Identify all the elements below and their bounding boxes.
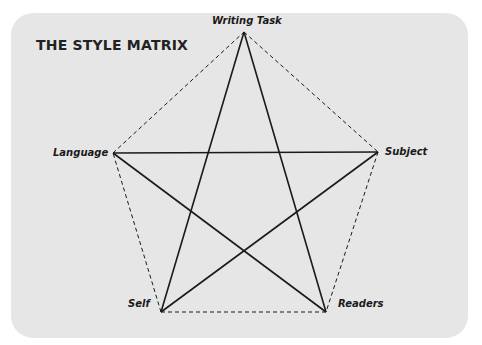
edge-language-subject bbox=[113, 152, 378, 153]
style-matrix-diagram bbox=[0, 0, 482, 345]
pentagon-dashed-edges bbox=[113, 32, 378, 312]
node-label-language: Language bbox=[53, 147, 108, 158]
edge-language-writing bbox=[113, 32, 244, 153]
edge-writing-readers bbox=[244, 32, 326, 312]
edge-subject-readers bbox=[326, 152, 378, 312]
star-solid-edges bbox=[113, 32, 378, 312]
node-label-self: Self bbox=[128, 298, 150, 309]
edge-language-readers bbox=[113, 153, 326, 312]
edge-self-language bbox=[113, 153, 161, 312]
edge-writing-subject bbox=[244, 32, 378, 152]
node-label-readers: Readers bbox=[338, 298, 384, 309]
edge-writing-self bbox=[161, 32, 244, 312]
node-label-writing-task: Writing Task bbox=[212, 15, 282, 26]
edge-self-subject bbox=[161, 152, 378, 312]
node-label-subject: Subject bbox=[385, 146, 427, 157]
